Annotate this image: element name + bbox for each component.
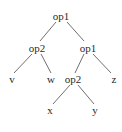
edge-op2-w	[41, 54, 51, 73]
node-leaf-x: x	[47, 104, 53, 116]
node-leaf-v: v	[9, 73, 15, 85]
expression-tree-diagram: op1 op2 op1 v w op2 z x y	[0, 0, 122, 132]
node-left-op2: op2	[29, 42, 46, 54]
node-leaf-w: w	[47, 73, 55, 85]
nodes: op1 op2 op1 v w op2 z x y	[9, 10, 116, 116]
edge-op2-x	[53, 85, 70, 104]
edge-op1-z	[93, 54, 111, 73]
node-right-op1: op1	[80, 42, 97, 54]
node-root-op1: op1	[53, 10, 70, 22]
edge-op2-v	[14, 54, 32, 73]
edge-op1-op1	[67, 22, 84, 41]
edges	[14, 22, 111, 104]
edge-op2-y	[78, 85, 94, 104]
edge-op1-op2-inner	[75, 54, 84, 73]
node-inner-op2: op2	[65, 73, 82, 85]
node-leaf-y: y	[92, 104, 98, 116]
node-leaf-z: z	[112, 73, 117, 85]
edge-op1-op2	[40, 22, 56, 41]
